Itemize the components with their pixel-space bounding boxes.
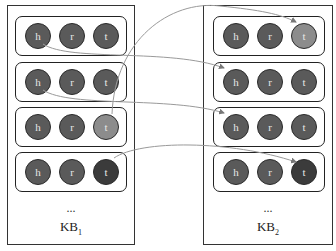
- kb1-label-main: KB: [60, 219, 78, 234]
- kb2-label-sub: 2: [275, 228, 279, 237]
- head-node: h: [223, 114, 249, 140]
- head-node: h: [25, 159, 51, 185]
- relation-node: r: [257, 69, 283, 95]
- kb1-triple-3: h r t: [15, 107, 127, 147]
- head-node: h: [25, 23, 51, 49]
- head-node: h: [223, 69, 249, 95]
- kb1-label: KB1: [8, 219, 134, 237]
- tail-node-dark: t: [291, 159, 317, 185]
- tail-node: t: [93, 69, 119, 95]
- head-node: h: [223, 159, 249, 185]
- head-node: h: [223, 23, 249, 49]
- tail-node: t: [93, 23, 119, 49]
- relation-node: r: [59, 114, 85, 140]
- kb2-container: h r t h r t h r t h r t ... KB2: [203, 5, 333, 245]
- relation-node: r: [59, 23, 85, 49]
- kb1-label-sub: 1: [78, 228, 82, 237]
- kb2-triple-4: h r t: [213, 152, 325, 192]
- relation-node: r: [257, 23, 283, 49]
- tail-node-highlight: t: [93, 114, 119, 140]
- tail-node: t: [291, 69, 317, 95]
- head-node: h: [25, 69, 51, 95]
- kb1-container: h r t h r t h r t h r t ... KB1: [7, 5, 135, 245]
- relation-node: r: [59, 159, 85, 185]
- kb2-label-main: KB: [257, 219, 275, 234]
- tail-node-dark: t: [93, 159, 119, 185]
- kb2-triple-3: h r t: [213, 107, 325, 147]
- kb1-ellipsis: ...: [8, 201, 134, 216]
- tail-node-highlight: t: [291, 23, 317, 49]
- relation-node: r: [59, 69, 85, 95]
- kb2-label: KB2: [204, 219, 332, 237]
- kb1-triple-1: h r t: [15, 16, 127, 56]
- relation-node: r: [257, 159, 283, 185]
- kb2-triple-1: h r t: [213, 16, 325, 56]
- head-node: h: [25, 114, 51, 140]
- kb1-triple-2: h r t: [15, 62, 127, 102]
- relation-node: r: [257, 114, 283, 140]
- kb2-triple-2: h r t: [213, 62, 325, 102]
- tail-node: t: [291, 114, 317, 140]
- kb1-triple-4: h r t: [15, 152, 127, 192]
- kb2-ellipsis: ...: [204, 201, 332, 216]
